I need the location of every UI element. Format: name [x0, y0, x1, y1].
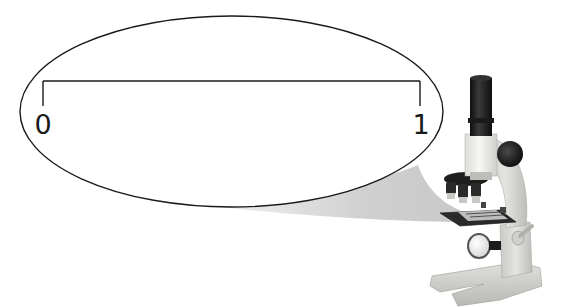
number-line-end-label: 1	[412, 111, 429, 138]
diagram-scene	[0, 0, 561, 307]
mirror	[468, 234, 490, 258]
magnification-bubble	[20, 16, 443, 207]
objective-lenses	[446, 182, 481, 203]
number-line-start-label: 0	[34, 111, 51, 138]
eyepiece-tube	[470, 78, 492, 136]
microscope-body-tube	[465, 134, 497, 176]
coarse-focus-knob	[497, 141, 523, 167]
microscope-illustration	[430, 75, 542, 306]
